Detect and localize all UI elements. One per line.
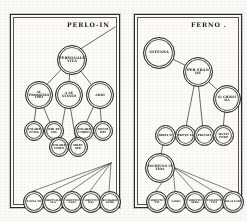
diagram-sheet: PERLO-IN PERSONALE VITAAL PROSSIMO IPIOA… (0, 0, 247, 221)
node-label: VIOLENTI TIGI (204, 200, 224, 205)
node-label: MULTI DEI (94, 128, 112, 133)
node-r-m4[interactable]: MULTI CORO (213, 125, 234, 146)
node-label: INTENSA (148, 51, 170, 54)
node-l-s4[interactable]: MULTI DEI (93, 121, 113, 141)
node-label: SIREC SEE (69, 144, 87, 149)
node-r-hub[interactable]: INCHIUSO SI FIDA (145, 153, 175, 183)
node-label: ADIO (94, 94, 106, 97)
node-label: A SE STESSO (56, 92, 82, 98)
node-r-m2[interactable]: PROTE IA (175, 125, 196, 146)
node-label: SERVITII DEI (81, 200, 101, 205)
node-label: PERSONALE VITA (58, 57, 86, 64)
node-r-c[interactable]: SI CHISSI DA (213, 85, 241, 113)
node-label: SI CHISSI DA (214, 96, 240, 102)
node-label: PROTE IA (177, 134, 195, 137)
node-l-m1[interactable]: AL PROSSIMO IPIO (25, 81, 53, 109)
node-label: FALSI FORI (224, 201, 243, 203)
node-label: PRIVATI (197, 134, 212, 137)
node-r-b5[interactable]: FALSI FORI (222, 191, 244, 213)
node-label: POTTA TE (26, 201, 42, 203)
node-label: MULTI CORO (214, 133, 233, 138)
node-label: SERVITII APRO (185, 200, 205, 205)
node-r-m3[interactable]: PRIVATI (194, 125, 215, 146)
node-label: SERVITII TTI (147, 200, 167, 205)
node-r-a[interactable]: INTENSA (143, 37, 175, 69)
node-label: INCHIUSO SI FIDA (146, 165, 174, 171)
node-l-b5[interactable]: RICHARDI ALTRI (99, 191, 121, 213)
node-label: PER FRAN DE (184, 69, 212, 76)
node-label: LADRI (170, 201, 181, 203)
node-label: SIRITUALE VLA (43, 200, 63, 205)
panel-left: PERLO-IN PERSONALE VITAAL PROSSIMO IPIOA… (10, 14, 120, 208)
node-l-m2[interactable]: A SE STESSO (55, 81, 83, 109)
node-l-s1[interactable]: SOLARE COMA (24, 121, 44, 141)
node-label: RICHARDI ALTRI (100, 200, 120, 205)
node-label: SOLARE CORPO (75, 128, 93, 133)
node-label: SOLARE COMO (50, 144, 68, 149)
node-r-m1[interactable]: DIREI TI (155, 125, 176, 146)
node-l-s6[interactable]: SIREC SEE (68, 137, 88, 157)
node-label: DIR EX SOL (45, 128, 63, 133)
node-label: DIREI TI (157, 134, 173, 137)
panel-left-links (11, 15, 119, 207)
panel-right: FERNO . INTENSAPER FRAN DESI CHISSI DADI… (134, 14, 242, 208)
node-r-b[interactable]: PER FRAN DE (183, 57, 213, 87)
node-label: SOLARE COMA (25, 128, 43, 133)
node-l-m3[interactable]: ADIO (86, 81, 114, 109)
node-label: AL PROSSIMO IPIO (26, 91, 52, 100)
node-label: SERVITII NATI (62, 200, 82, 205)
node-l-root[interactable]: PERSONALE VITA (57, 45, 87, 75)
node-l-s5[interactable]: SOLARE COMO (49, 137, 69, 157)
